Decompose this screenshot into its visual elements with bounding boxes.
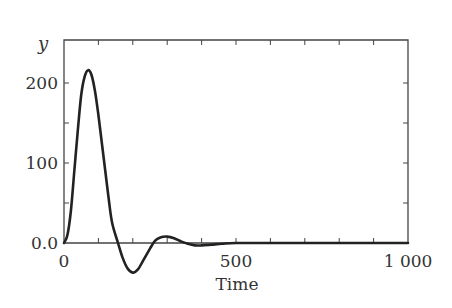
y-axis-label: y bbox=[37, 33, 49, 54]
x-tick-label: 1 000 bbox=[384, 251, 433, 271]
y-tick-label: 200 bbox=[26, 73, 58, 93]
chart: 05001 000 0.0100200 y Time bbox=[0, 0, 452, 308]
x-tick-label: 500 bbox=[220, 251, 252, 271]
y-tick-labels: 0.0100200 bbox=[26, 73, 58, 253]
axis-ticks bbox=[64, 40, 408, 243]
axes-box bbox=[64, 40, 408, 243]
x-axis-label: Time bbox=[216, 274, 259, 294]
series-line-y bbox=[64, 70, 408, 272]
y-tick-label: 0.0 bbox=[31, 233, 58, 253]
y-tick-label: 100 bbox=[26, 153, 58, 173]
x-tick-label: 0 bbox=[59, 251, 70, 271]
plot-frame bbox=[64, 40, 408, 243]
x-tick-labels: 05001 000 bbox=[59, 251, 433, 271]
